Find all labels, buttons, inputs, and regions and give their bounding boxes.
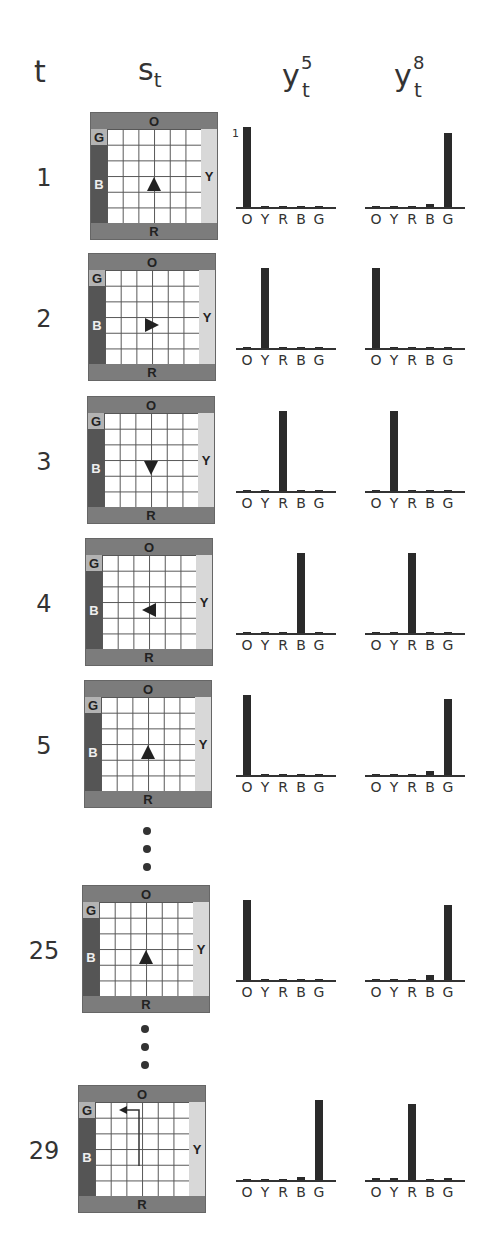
wall-bottom-red: R	[88, 507, 214, 523]
x-tick-label: R	[403, 637, 421, 653]
bar-Y	[390, 632, 398, 633]
bar-O	[243, 632, 251, 633]
bar-Y	[390, 411, 398, 491]
header-y5: y5t	[282, 58, 300, 93]
bar-G	[315, 206, 323, 207]
header-y8-sup: 8	[413, 52, 424, 73]
wall-corner-green: G	[83, 902, 99, 918]
x-axis-line	[236, 1180, 336, 1182]
x-tick-label: O	[238, 352, 256, 368]
header-s-sub: t	[154, 68, 162, 92]
bar-B	[297, 1177, 305, 1180]
bar-B	[297, 347, 305, 348]
bar-Y	[261, 490, 269, 491]
timestep-label: 1	[14, 164, 74, 192]
bar-G	[444, 347, 452, 348]
wall-right-yellow: Y	[193, 902, 209, 996]
bar-chart-y8: OYRBG	[365, 553, 465, 653]
bar-B	[426, 771, 434, 775]
timestep-label: 29	[14, 1137, 74, 1165]
x-tick-label: R	[403, 495, 421, 511]
header-s-main: s	[138, 52, 154, 87]
x-tick-label: Y	[385, 495, 403, 511]
bar-chart-y5: 1OYRBG	[236, 127, 336, 227]
x-tick-label: R	[403, 352, 421, 368]
bar-Y	[390, 347, 398, 348]
bar-B	[297, 553, 305, 633]
wall-left-blue: B	[88, 429, 104, 507]
header-t: t	[34, 54, 46, 89]
bar-O	[243, 695, 251, 775]
gridworld-state: ORGBY	[90, 112, 218, 240]
wall-corner-green: G	[85, 697, 101, 713]
x-tick-label: B	[292, 495, 310, 511]
gridworld-state: ORGBY	[82, 885, 210, 1013]
bar-G	[444, 699, 452, 775]
bar-O	[372, 632, 380, 633]
gridworld-state: ORGBY	[85, 538, 213, 666]
x-tick-label: R	[274, 984, 292, 1000]
bar-G	[444, 1178, 452, 1180]
x-tick-label: G	[439, 1184, 457, 1200]
bar-G	[315, 632, 323, 633]
bar-O	[243, 347, 251, 348]
x-tick-label: Y	[385, 1184, 403, 1200]
x-tick-label: O	[238, 1184, 256, 1200]
bar-Y	[261, 1179, 269, 1180]
timestep-label: 4	[14, 590, 74, 618]
x-tick-label: O	[238, 637, 256, 653]
bar-O	[243, 1179, 251, 1180]
x-tick-label: Y	[385, 984, 403, 1000]
header-s: st	[138, 52, 161, 92]
x-tick-label: B	[421, 1184, 439, 1200]
header-y5-sub: t	[302, 78, 310, 102]
x-tick-label: O	[367, 637, 385, 653]
bar-B	[426, 1179, 434, 1180]
bar-G	[315, 490, 323, 491]
x-tick-label: R	[403, 984, 421, 1000]
wall-corner-green: G	[86, 555, 102, 571]
bar-B	[426, 490, 434, 491]
x-tick-label: R	[403, 779, 421, 795]
timestep-label: 25	[14, 937, 74, 965]
x-tick-label: R	[274, 352, 292, 368]
wall-corner-green: G	[89, 270, 105, 286]
bar-R	[279, 774, 287, 775]
wall-left-blue: B	[85, 713, 101, 791]
bar-chart-y8: OYRBG	[365, 268, 465, 368]
bar-Y	[261, 268, 269, 348]
x-tick-label: Y	[256, 1184, 274, 1200]
x-tick-label: O	[367, 211, 385, 227]
timestep-label: 2	[14, 305, 74, 333]
bar-G	[444, 632, 452, 633]
bar-chart-y5: OYRBG	[236, 411, 336, 511]
bar-R	[408, 347, 416, 348]
bar-chart-y8: OYRBG	[365, 900, 465, 1000]
x-tick-label: R	[403, 1184, 421, 1200]
x-tick-label: O	[367, 495, 385, 511]
x-tick-label: R	[274, 211, 292, 227]
x-axis-line	[365, 775, 465, 777]
bar-R	[279, 1179, 287, 1180]
x-tick-label: B	[421, 779, 439, 795]
bar-G	[444, 133, 452, 207]
wall-right-yellow: Y	[198, 413, 214, 507]
grid-cells	[104, 413, 198, 507]
bar-Y	[390, 979, 398, 980]
wall-top-orange: O	[88, 397, 214, 413]
x-tick-label: R	[403, 211, 421, 227]
wall-bottom-red: R	[91, 223, 217, 239]
grid-cells	[99, 902, 193, 996]
x-tick-label: Y	[385, 352, 403, 368]
x-tick-label: G	[439, 211, 457, 227]
bar-R	[279, 411, 287, 491]
bar-O	[243, 490, 251, 491]
bar-R	[408, 553, 416, 633]
bar-R	[279, 347, 287, 348]
bar-Y	[261, 774, 269, 775]
bar-chart-y5: OYRBG	[236, 1100, 336, 1200]
agent-arrow-up-icon	[141, 745, 155, 759]
x-axis-line	[236, 348, 336, 350]
x-tick-label: G	[310, 352, 328, 368]
x-tick-label: G	[439, 779, 457, 795]
